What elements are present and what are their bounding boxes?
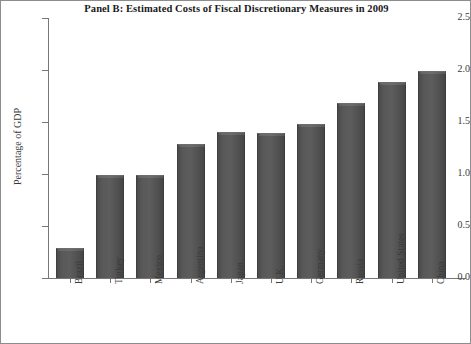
bar [257,133,285,278]
x-tick-mark [231,279,232,283]
x-category-label: United States [396,233,406,284]
x-tick-mark [271,279,272,283]
chart-title: Panel B: Estimated Costs of Fiscal Discr… [1,3,471,14]
bar [337,103,365,278]
x-tick-mark [311,279,312,283]
x-category-label: U.K. [275,266,285,284]
chart-figure: Panel B: Estimated Costs of Fiscal Discr… [0,0,471,344]
x-category-label: Mexico [154,255,164,284]
x-tick-mark [110,279,111,283]
x-tick-mark [191,279,192,283]
x-category-label: Russia [355,259,365,284]
y-tick-mark [42,278,48,279]
x-category-label: Brazil [74,261,84,284]
x-tick-mark [70,279,71,283]
x-tick-mark [432,279,433,283]
x-category-label: Argentina [195,246,205,284]
x-tick-mark [150,279,151,283]
x-category-label: China [436,261,446,284]
x-category-label: Turkey [114,257,124,284]
x-tick-mark [351,279,352,283]
bar [418,71,446,278]
x-category-label: Japan [235,262,245,284]
bar [217,132,245,278]
x-category-label: Germany [315,249,325,284]
x-tick-mark [392,279,393,283]
y-axis-label: Percentage of GDP [12,87,23,207]
